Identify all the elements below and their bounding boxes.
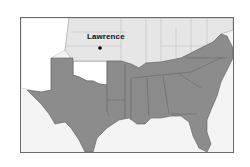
us-south-map [21, 18, 233, 152]
lawrence-dot [98, 46, 102, 50]
city-label-lawrence: Lawrence [87, 32, 125, 41]
map-frame: Lawrence [20, 17, 234, 153]
